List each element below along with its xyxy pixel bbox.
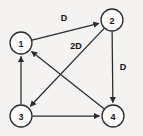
node-label-3: 3 — [18, 112, 23, 122]
node-label-4: 4 — [110, 112, 115, 122]
node-1[interactable]: 1 — [10, 32, 32, 54]
edge-2-to-3 — [30, 28, 104, 106]
edges-layer — [21, 23, 113, 116]
graph-canvas: 1234 DD2D — [0, 0, 143, 136]
node-label-1: 1 — [18, 39, 23, 49]
edge-label-4-to-1: 2D — [70, 41, 82, 51]
node-2[interactable]: 2 — [101, 9, 123, 31]
edge-label-2-to-4: D — [120, 62, 127, 72]
edge-4-to-1 — [32, 51, 104, 108]
edge-label-1-to-2: D — [61, 13, 68, 23]
node-3[interactable]: 3 — [10, 105, 32, 127]
edge-2-to-4 — [112, 31, 113, 102]
edge-1-to-2 — [32, 23, 99, 40]
node-4[interactable]: 4 — [102, 105, 124, 127]
graph-diagram: 1234 DD2D — [0, 0, 143, 136]
node-label-2: 2 — [109, 16, 114, 26]
